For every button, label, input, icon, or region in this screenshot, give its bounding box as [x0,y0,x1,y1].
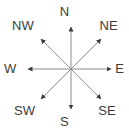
direction-label-southwest: SW [14,104,35,117]
direction-label-west: W [4,62,16,75]
ray-northeast-icon [71,39,101,69]
direction-label-northwest: NW [12,19,34,32]
direction-label-north: N [0,5,129,18]
direction-label-northeast: NE [100,19,118,32]
ray-northwest-icon [41,39,71,69]
ray-southeast-icon [71,69,101,99]
direction-label-east: E [115,62,124,75]
compass-rose-figure: N NE E SE S SW W NW [0,0,129,134]
ray-southwest-icon [41,69,71,99]
